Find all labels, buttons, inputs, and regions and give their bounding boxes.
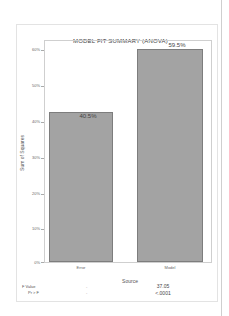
y-tickmark <box>41 229 44 230</box>
bar-error <box>49 112 113 262</box>
y-tickmark <box>41 194 44 195</box>
y-tickmark <box>41 50 44 51</box>
y-tick-20: 20% <box>20 191 40 196</box>
y-tick-50: 50% <box>20 83 40 88</box>
bar-label-error: 40.5% <box>68 113 108 119</box>
bar-label-model: 59.5% <box>157 42 197 48</box>
stat-model-prf: <.0001 <box>148 290 178 296</box>
y-tickmark <box>41 122 44 123</box>
stat-label-prf: Pr > F <box>28 290 39 295</box>
stat-label-fvalue: F Value <box>22 284 36 289</box>
stat-error-prf: - <box>86 290 87 295</box>
y-tickmark <box>41 262 44 263</box>
y-axis-label: Sum of Squares <box>19 123 25 183</box>
y-tick-60: 60% <box>20 47 40 52</box>
y-tickmark <box>41 86 44 87</box>
y-tickmark <box>41 158 44 159</box>
y-tick-10: 10% <box>20 226 40 231</box>
x-axis-label: Source <box>110 278 150 284</box>
stat-model-fvalue: 37.05 <box>148 283 178 289</box>
plot-area <box>44 40 212 263</box>
x-tick-error: Error <box>66 265 96 270</box>
bar-model <box>137 49 203 262</box>
y-tick-0: 0% <box>20 260 40 265</box>
stat-error-fvalue: - <box>86 284 87 289</box>
x-tick-model: Model <box>155 265 185 270</box>
page-edge-rule <box>221 0 222 316</box>
